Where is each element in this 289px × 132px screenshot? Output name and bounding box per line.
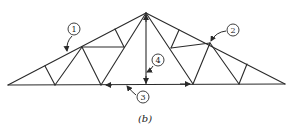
- bottom-chord-arrows: [106, 15, 190, 85]
- top-chord-right: [146, 13, 285, 84]
- callout-2-label: 2: [230, 26, 235, 35]
- left-web-members: [45, 13, 146, 85]
- web-right-diagonal-2: [210, 43, 239, 84]
- web-right-diagonal-1: [193, 43, 210, 84]
- callout-2-leader: [211, 31, 226, 41]
- callout-4-label: 4: [155, 56, 160, 65]
- callout-4-leader: [147, 66, 153, 72]
- figure-caption: (b): [138, 113, 152, 124]
- callout-3: 3: [127, 86, 149, 103]
- strut-left-inner: [115, 29, 124, 47]
- callout-3-label: 3: [140, 93, 145, 102]
- callout-3-leader: [127, 86, 136, 95]
- callout-4: 4: [147, 54, 164, 72]
- strut-left-outer: [45, 66, 55, 85]
- callout-1: 1: [67, 23, 80, 51]
- web-left-main-diagonal: [101, 13, 146, 85]
- callout-2: 2: [211, 24, 239, 41]
- web-right-horizontal: [171, 43, 210, 48]
- web-right-main-diagonal: [146, 13, 193, 84]
- callout-1-label: 1: [71, 25, 76, 34]
- truss-diagram: 1 2 3 4 (b): [0, 0, 289, 132]
- callout-1-leader: [67, 36, 72, 51]
- right-web-members: [146, 13, 247, 84]
- web-left-diagonal-1: [55, 47, 82, 85]
- strut-right-inner: [171, 30, 179, 48]
- strut-right-outer: [239, 64, 247, 84]
- web-left-diagonal-2: [82, 47, 101, 85]
